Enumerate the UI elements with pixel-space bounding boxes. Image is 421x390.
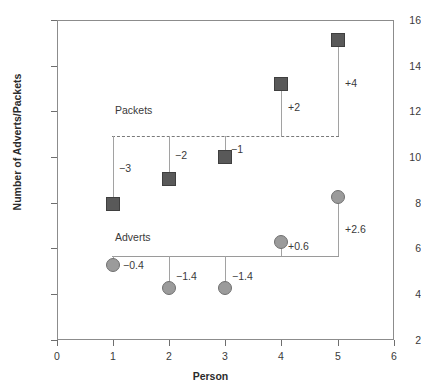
- y-tick-label-6: 6: [399, 243, 421, 253]
- packets-deviation-label-3: −1: [231, 144, 243, 155]
- packets-deviation-label-2: −2: [175, 150, 187, 161]
- x-tick-mark-5: [338, 340, 339, 346]
- y-tick-mark-10: [51, 157, 57, 158]
- packets-stem-4: [281, 84, 282, 136]
- packets-marker-1[interactable]: [106, 197, 120, 211]
- x-tick-mark-0: [57, 340, 58, 346]
- packets-stem-1: [113, 136, 114, 204]
- x-tick-label-6: 6: [383, 351, 405, 362]
- y-tick-label-12: 12: [399, 106, 421, 116]
- packets-marker-2[interactable]: [162, 172, 176, 186]
- adverts-marker-4[interactable]: [274, 235, 288, 249]
- y-tick-mark-6: [51, 248, 57, 249]
- x-tick-label-0: 0: [46, 351, 68, 362]
- packets-series-label: Packets: [115, 105, 152, 116]
- y-tick-mark-14: [51, 66, 57, 67]
- packets-marker-3[interactable]: [218, 150, 232, 164]
- adverts-series-label: Adverts: [115, 232, 151, 243]
- adverts-marker-5[interactable]: [331, 190, 345, 204]
- adverts-deviation-label-5: +2.6: [345, 224, 366, 235]
- adverts-marker-2[interactable]: [162, 281, 176, 295]
- y-tick-label-10: 10: [399, 152, 421, 162]
- y-tick-mark-4: [51, 294, 57, 295]
- adverts-deviation-label-1: −0.4: [123, 260, 144, 271]
- packets-deviation-label-4: +2: [288, 102, 300, 113]
- y-tick-label-8: 8: [399, 198, 421, 208]
- y-tick-mark-16: [51, 20, 57, 21]
- packets-deviation-label-5: +4: [345, 78, 357, 89]
- adverts-deviation-label-4: +0.6: [288, 241, 309, 252]
- x-tick-mark-6: [394, 340, 395, 346]
- x-axis-title: Person: [0, 370, 421, 382]
- adverts-deviation-label-2: −1.4: [176, 271, 197, 282]
- y-axis-title: Number of Adverts/Packets: [11, 42, 23, 242]
- y-tick-label-4: 4: [399, 289, 421, 299]
- adverts-stem-5: [338, 197, 339, 256]
- x-tick-label-2: 2: [158, 351, 180, 362]
- y-tick-label-2: 2: [399, 335, 421, 345]
- packets-marker-5[interactable]: [331, 33, 345, 47]
- y-tick-mark-12: [51, 111, 57, 112]
- x-tick-mark-4: [281, 340, 282, 346]
- x-tick-label-1: 1: [102, 351, 124, 362]
- adverts-marker-3[interactable]: [218, 281, 232, 295]
- x-tick-label-4: 4: [270, 351, 292, 362]
- adverts-marker-1[interactable]: [106, 258, 120, 272]
- y-tick-mark-8: [51, 203, 57, 204]
- x-tick-mark-3: [225, 340, 226, 346]
- x-tick-label-3: 3: [214, 351, 236, 362]
- y-tick-label-14: 14: [399, 61, 421, 71]
- chart-container: 16 14 12 10 8 6 4 2 0 1 2 3 4 5 6 Number…: [0, 0, 421, 390]
- packets-stem-5: [338, 40, 339, 136]
- x-tick-mark-1: [113, 340, 114, 346]
- adverts-deviation-label-3: −1.4: [232, 271, 253, 282]
- x-tick-label-5: 5: [327, 351, 349, 362]
- packets-deviation-label-1: −3: [119, 163, 131, 174]
- packets-marker-4[interactable]: [274, 77, 288, 91]
- y-tick-label-16: 16: [399, 15, 421, 25]
- x-tick-mark-2: [169, 340, 170, 346]
